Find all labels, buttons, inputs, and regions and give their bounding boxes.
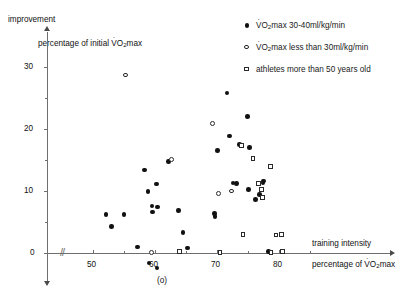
data-point-filled-circle <box>146 189 151 194</box>
y-axis-arrow-down <box>44 281 50 286</box>
data-point-filled-circle <box>225 91 230 96</box>
data-point-open-circle <box>216 191 221 196</box>
below-axis-annotation: (o) <box>157 277 167 285</box>
x-tick-60 <box>155 250 156 254</box>
vdot-x: ·V <box>364 260 369 269</box>
x-axis-subtitle: percentage of ·VO2max <box>312 261 395 269</box>
axis-break-symbol: // <box>60 247 64 258</box>
vdot-mark-y: · <box>113 34 115 41</box>
data-point-filled-circle <box>213 214 218 219</box>
y-ticklabel-0: 0 <box>30 249 35 257</box>
x-tick-50 <box>93 250 94 254</box>
x-ticklabel-50: 50 <box>87 261 96 269</box>
data-point-filled-circle <box>150 210 155 215</box>
x-axis-arrow <box>390 250 395 256</box>
y-axis-subtitle: percentage of initial ·VO2max <box>38 40 142 48</box>
data-point-filled-circle <box>227 134 232 139</box>
x-ticklabel-70: 70 <box>211 261 220 269</box>
data-point-filled-circle <box>154 182 159 187</box>
data-point-filled-circle <box>135 245 140 250</box>
legend-label-2: athletes more than 50 years old <box>256 65 371 74</box>
data-point-open-square <box>241 232 246 237</box>
data-point-filled-circle <box>155 205 160 210</box>
y-tick-10 <box>44 191 48 192</box>
data-point-filled-circle <box>261 179 266 184</box>
legend-item-0: ·VO2max 30-40ml/kg/min <box>244 21 345 30</box>
legend-item-2: athletes more than 50 years old <box>244 65 371 74</box>
y-axis-subtitle-post: max <box>127 39 142 48</box>
data-point-filled-circle <box>185 246 190 251</box>
x-tick-75 <box>248 251 249 254</box>
y-tick-5 <box>45 222 48 223</box>
data-point-open-square <box>269 250 274 255</box>
y-tick-0 <box>44 253 48 254</box>
data-point-filled-circle <box>234 181 239 186</box>
y-axis-arrow <box>44 26 50 31</box>
data-point-open-square <box>274 233 279 238</box>
data-point-filled-circle <box>104 212 109 217</box>
y-tick-15 <box>45 160 48 161</box>
data-point-open-circle <box>229 189 234 194</box>
open-circle-icon <box>244 45 250 51</box>
data-point-filled-circle <box>253 197 258 202</box>
y-tick-30 <box>44 67 48 68</box>
data-point-open-square <box>259 187 264 192</box>
data-point-filled-circle <box>142 168 147 173</box>
x-axis-title: training intensity <box>312 240 371 248</box>
data-point-open-square <box>251 156 256 161</box>
legend-label-1: ·VO2max less than 30ml/kg/min <box>256 43 368 52</box>
y-axis-line <box>47 32 48 284</box>
y-tick-25 <box>45 98 48 99</box>
data-point-open-square <box>279 232 284 237</box>
open-square-icon <box>244 67 250 73</box>
legend-item-1: ·VO2max less than 30ml/kg/min <box>244 43 368 52</box>
vdot-y: ·V <box>111 39 116 48</box>
y-ticklabel-20: 20 <box>24 125 33 133</box>
x-tick-85 <box>310 251 311 254</box>
data-point-open-square <box>260 195 265 200</box>
data-point-open-square <box>218 250 223 255</box>
filled-circle-icon <box>244 23 250 29</box>
legend-label-0: ·VO2max 30-40ml/kg/min <box>256 21 345 30</box>
data-point-open-circle <box>123 73 128 78</box>
data-point-filled-circle <box>246 187 251 192</box>
y-tick-20 <box>44 129 48 130</box>
data-point-filled-circle <box>109 224 114 229</box>
data-point-open-square <box>256 181 261 186</box>
scatter-plot: improvement percentage of initial ·VO2ma… <box>0 0 418 302</box>
data-point-open-square <box>239 143 244 148</box>
y-axis-title: improvement <box>8 16 55 24</box>
x-tick-65 <box>186 251 187 254</box>
data-point-filled-circle <box>155 266 160 271</box>
data-point-open-circle <box>210 121 215 126</box>
y-axis-subtitle-pre: percentage of initial <box>38 39 111 48</box>
data-point-filled-circle <box>150 204 155 209</box>
data-point-filled-circle <box>215 148 220 153</box>
y-ticklabel-30: 30 <box>24 63 33 71</box>
data-point-filled-circle <box>247 145 252 150</box>
data-point-open-square <box>177 249 182 254</box>
data-point-filled-circle <box>176 208 181 213</box>
data-point-open-circle <box>169 157 174 162</box>
data-point-filled-circle <box>245 114 250 119</box>
vo2-symbol-y: ·VO2 <box>111 39 126 48</box>
vdot-mark-x: · <box>366 255 368 262</box>
data-point-open-circle <box>149 250 154 255</box>
x-axis-subtitle-post: max <box>380 260 395 269</box>
data-point-open-square <box>280 249 285 254</box>
x-axis-subtitle-pre: percentage of <box>312 260 364 269</box>
data-point-filled-circle <box>122 212 127 217</box>
data-point-open-square <box>268 164 273 169</box>
x-tick-55 <box>124 251 125 254</box>
vo2-symbol-x: ·VO2 <box>364 260 379 269</box>
y-ticklabel-10: 10 <box>24 187 33 195</box>
x-ticklabel-80: 80 <box>273 261 282 269</box>
data-point-filled-circle <box>181 230 186 235</box>
